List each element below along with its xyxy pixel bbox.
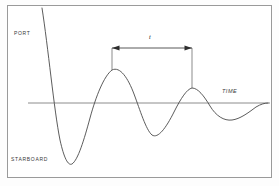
axis-label-starboard: STARBOARD bbox=[11, 156, 48, 162]
roll-angle-diagram: PORT STARBOARD ROLL ANGLE TIME t bbox=[0, 0, 279, 186]
axis-label-port: PORT bbox=[14, 30, 31, 36]
period-label: t bbox=[149, 34, 151, 40]
x-axis-label-time: TIME bbox=[222, 88, 237, 94]
period-arrowhead-left bbox=[112, 45, 120, 50]
period-annotation bbox=[112, 45, 192, 88]
period-arrowhead-right bbox=[185, 45, 193, 50]
roll-angle-curve bbox=[42, 8, 268, 164]
